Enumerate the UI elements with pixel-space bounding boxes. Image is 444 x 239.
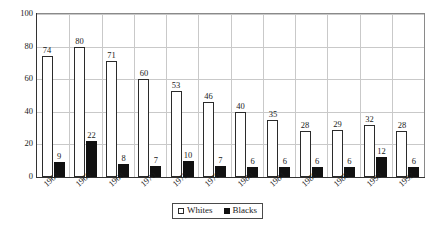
bar-value-label: 74 xyxy=(43,46,52,55)
bar-whites-1988 xyxy=(332,130,343,177)
group-separator xyxy=(295,14,296,177)
bar-value-label: 40 xyxy=(236,102,245,111)
bar-whites-1966 xyxy=(74,47,85,177)
bar-value-label: 8 xyxy=(121,154,125,163)
group-separator xyxy=(166,14,167,177)
bar-whites-1964 xyxy=(42,56,53,177)
bar-value-label: 80 xyxy=(75,37,84,46)
bar-value-label: 12 xyxy=(377,147,386,156)
cutoff-caption-text xyxy=(0,232,444,239)
bar-whites-1970 xyxy=(138,79,149,177)
bar-value-label: 6 xyxy=(412,157,416,166)
bar-value-label: 6 xyxy=(250,157,254,166)
y-tick-label: 20 xyxy=(25,139,34,148)
bar-value-label: 10 xyxy=(184,151,193,160)
bar-value-label: 29 xyxy=(333,120,342,129)
open-square-icon xyxy=(178,208,184,214)
bar-whites-1990 xyxy=(364,125,375,177)
group-separator xyxy=(263,14,264,177)
group-separator xyxy=(327,14,328,177)
bar-value-label: 60 xyxy=(140,69,149,78)
bar-value-label: 28 xyxy=(398,121,407,130)
bar-value-label: 6 xyxy=(347,157,351,166)
group-separator xyxy=(392,14,393,177)
group-separator xyxy=(134,14,135,177)
legend-item-blacks: Blacks xyxy=(224,205,258,216)
bar-whites-1976 xyxy=(203,102,214,177)
bar-value-label: 6 xyxy=(283,157,287,166)
bars-layer: 749802271860753104674063562862963212286 xyxy=(37,14,424,177)
y-tick-label: 60 xyxy=(25,74,34,83)
bar-whites-1984 xyxy=(267,120,278,177)
group-separator xyxy=(231,14,232,177)
group-separator xyxy=(198,14,199,177)
legend-item-whites: Whites xyxy=(178,205,213,216)
bar-value-label: 7 xyxy=(154,156,158,165)
bar-value-label: 46 xyxy=(204,92,213,101)
bar-value-label: 71 xyxy=(107,51,116,60)
group-separator xyxy=(69,14,70,177)
legend-label-whites: Whites xyxy=(187,205,213,216)
y-tick-label: 80 xyxy=(25,42,34,51)
bar-value-label: 7 xyxy=(218,156,222,165)
bar-whites-1968 xyxy=(106,61,117,177)
bar-whites-1972 xyxy=(171,91,182,177)
y-tick-label: 40 xyxy=(25,107,34,116)
bar-value-label: 6 xyxy=(315,157,319,166)
filled-square-icon xyxy=(224,208,230,214)
bar-value-label: 35 xyxy=(269,110,278,119)
bar-value-label: 9 xyxy=(57,152,61,161)
y-tick-label: 0 xyxy=(29,172,33,181)
bar-value-label: 32 xyxy=(365,115,374,124)
bar-whites-1992 xyxy=(396,131,407,177)
bar-chart: 020406080100 749802271860753104674063562… xyxy=(0,0,444,239)
chart-legend: Whites Blacks xyxy=(172,203,263,219)
cutoff-caption xyxy=(0,232,444,239)
y-tick-label: 100 xyxy=(20,9,33,18)
bar-value-label: 53 xyxy=(172,81,181,90)
group-separator xyxy=(102,14,103,177)
bar-value-label: 22 xyxy=(87,131,96,140)
group-separator xyxy=(360,14,361,177)
bar-value-label: 28 xyxy=(301,121,310,130)
legend-label-blacks: Blacks xyxy=(233,205,258,216)
bar-whites-1986 xyxy=(300,131,311,177)
bar-whites-1980 xyxy=(235,112,246,177)
